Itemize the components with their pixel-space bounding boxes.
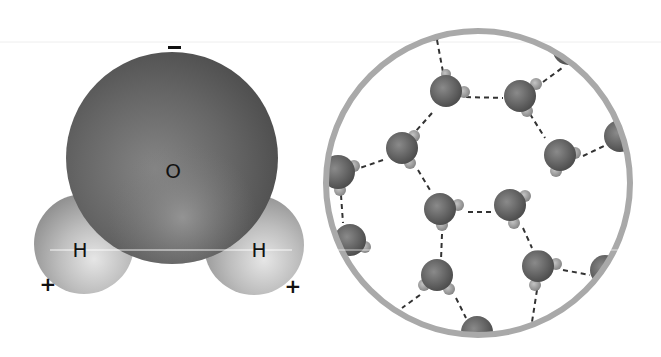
- magnification-circle: [326, 31, 630, 335]
- hydrogen-label-left: H: [72, 238, 87, 262]
- water-diagram: O H H + +: [0, 0, 661, 357]
- negative-charge-sign: [168, 46, 181, 49]
- network-molecule: [522, 250, 562, 291]
- hydrogen-label-right: H: [251, 238, 266, 262]
- positive-charge-left: +: [40, 272, 57, 296]
- network-molecule: [430, 69, 470, 107]
- water-molecule: O H H + +: [34, 46, 304, 298]
- network-molecule: [424, 193, 464, 231]
- oxygen-highlight: [66, 52, 278, 264]
- oxygen-label: O: [165, 159, 181, 183]
- network-molecule: [494, 189, 531, 229]
- network-molecules: [321, 11, 636, 348]
- network-molecule: [386, 130, 420, 169]
- positive-charge-right: +: [285, 274, 302, 298]
- network-molecule: [544, 139, 581, 177]
- hydrogen-bonds: [341, 40, 604, 322]
- network-molecule: [504, 78, 542, 117]
- hydrogen-bond-network: [321, 11, 636, 348]
- network-molecule: [418, 259, 455, 295]
